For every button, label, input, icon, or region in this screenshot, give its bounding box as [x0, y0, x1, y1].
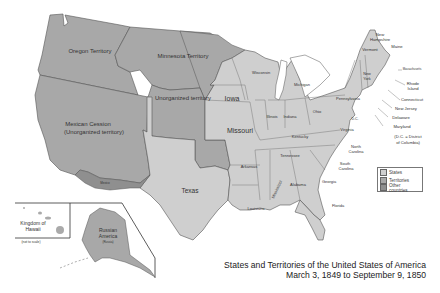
label-connecticut: Connecticut	[401, 97, 424, 102]
label-illinois: Illinois	[266, 114, 277, 119]
label-massachusetts: Massachusetts	[403, 67, 422, 71]
label-new-jersey: New Jersey	[395, 106, 418, 111]
label-dc: D.C.	[352, 117, 359, 121]
label-pennsylvania: Pennsylvania	[336, 96, 361, 101]
label-michigan: Michigan	[294, 82, 310, 87]
label-rhode-island-2: Island	[407, 86, 419, 91]
label-new-york-2: York	[363, 77, 371, 81]
label-ohio: Ohio	[313, 109, 322, 114]
label-oregon-1: Oregon Territory	[68, 48, 111, 54]
label-alaska-note: (Russia)	[102, 240, 113, 244]
legend-label-other: Other countries	[389, 183, 420, 193]
label-maine: Maine	[391, 44, 403, 49]
label-vermont: Vermont	[362, 47, 378, 52]
label-minnesota: Minnesota Territory	[158, 53, 209, 59]
label-kentucky: Kentucky	[292, 134, 308, 139]
label-dc-note-2: of Columbia)	[396, 140, 420, 145]
label-hawaii-2: Hawaii	[25, 226, 40, 232]
legend-swatch-territories	[380, 177, 387, 184]
label-maryland: Maryland	[393, 124, 411, 129]
legend-swatch-other	[380, 184, 387, 191]
label-wisconsin: Wisconsin	[252, 70, 270, 75]
label-missouri: Missouri	[227, 127, 254, 134]
label-delaware: Delaware	[392, 115, 410, 120]
label-north-carolina-2: Carolina	[349, 149, 365, 154]
label-alabama: Alabama	[290, 182, 307, 187]
label-iowa: Iowa	[225, 95, 240, 102]
label-tennessee: Tennessee	[280, 153, 300, 158]
inset-hawaii: Kingdom of Hawaii (not to scale)	[15, 203, 70, 244]
label-south-carolina-2: Carolina	[339, 166, 355, 171]
map-subtitle: March 3, 1849 to September 9, 1850	[224, 270, 426, 280]
label-unorganized: Unorganized territory	[155, 95, 211, 101]
legend-label-states: States	[389, 170, 402, 175]
legend-swatch-states	[380, 169, 387, 176]
label-mexican-cession-2: (Unorganized territory)	[64, 129, 124, 135]
label-georgia: Georgia	[322, 179, 337, 184]
label-indiana: Indiana	[283, 114, 297, 119]
label-alaska-2: America	[99, 233, 118, 239]
label-virginia: Virginia	[340, 127, 354, 132]
label-new-hampshire-2: Hampshire	[370, 37, 391, 42]
inset-alaska: Russian America (Russia)	[60, 203, 155, 278]
map-caption: States and Territories of the United Sta…	[224, 260, 426, 280]
legend-states: States	[380, 169, 420, 177]
us-map-1849: Oregon Territory Minnesota Territory Uno…	[0, 0, 440, 293]
legend-other-countries: Other countries	[380, 184, 420, 192]
label-texas: Texas	[182, 187, 200, 194]
label-mexican-cession-1: Mexican Cession	[65, 121, 111, 127]
map-title: States and Territories of the United Sta…	[224, 260, 426, 270]
map-legend: States Territories Other countries	[377, 167, 423, 192]
label-florida: Florida	[332, 203, 345, 208]
label-new-york-1: New	[363, 72, 371, 76]
label-hawaii-note: (not to scale)	[21, 240, 40, 244]
label-dc-note-1: (D.C. = District	[394, 134, 422, 139]
label-arkansas: Arkansas	[241, 164, 258, 169]
label-mexico: Mexico	[100, 181, 110, 185]
label-louisiana: Louisiana	[247, 206, 265, 211]
